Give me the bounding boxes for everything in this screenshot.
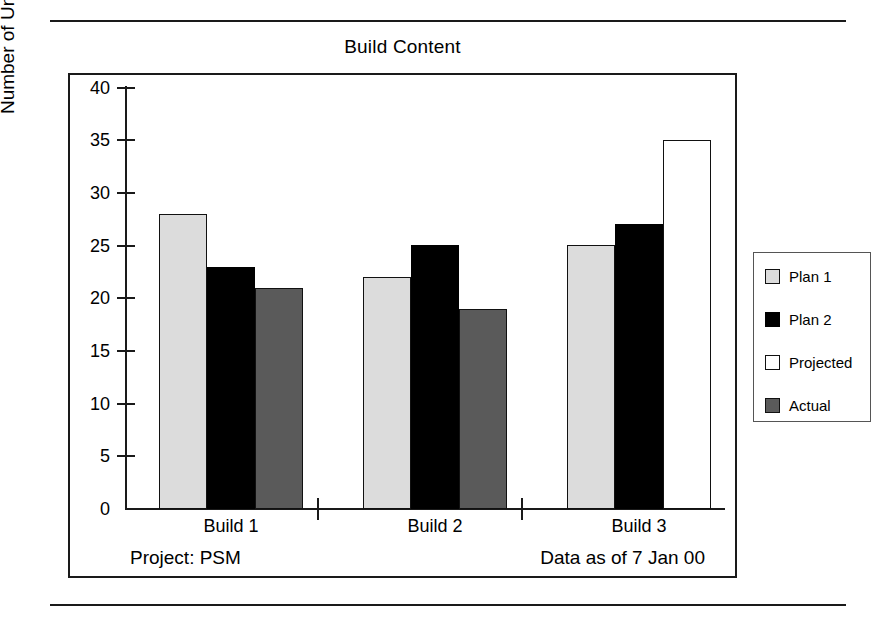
y-tick-label-5: 5 [68,447,110,465]
legend-item-plan-2[interactable]: Plan 2 [765,311,832,328]
bar-build3-projected[interactable] [663,140,711,509]
y-tick-30 [117,192,135,194]
bottom-horizontal-rule [50,604,846,606]
y-tick-40 [117,87,135,89]
chart-title: Build Content [68,36,737,58]
legend-label-plan-1: Plan 1 [789,268,832,285]
y-tick-label-25: 25 [68,237,110,255]
x-axis-label-build-1: Build 1 [151,516,311,537]
bar-build2-plan2[interactable] [411,245,459,509]
legend-item-plan-1[interactable]: Plan 1 [765,268,832,285]
group-separator-2 [521,498,523,520]
bar-build2-plan1[interactable] [363,277,411,509]
y-tick-label-30: 30 [68,184,110,202]
chart-legend: Plan 1 Plan 2 Projected Actual [753,252,871,422]
legend-swatch-plan-2 [765,312,780,327]
plot-area: 40 35 30 25 20 15 10 5 0 Build 1 [70,75,735,576]
x-axis-label-build-2: Build 2 [355,516,515,537]
y-tick-label-40: 40 [68,79,110,97]
y-tick-label-10: 10 [68,395,110,413]
y-tick-10 [117,403,135,405]
y-tick-15 [117,350,135,352]
data-as-of-annotation: Data as of 7 Jan 00 [540,547,705,569]
legend-swatch-plan-1 [765,269,780,284]
legend-label-actual: Actual [789,397,831,414]
y-tick-label-35: 35 [68,131,110,149]
y-tick-label-15: 15 [68,342,110,360]
bar-build2-actual[interactable] [459,309,507,509]
y-tick-25 [117,245,135,247]
y-tick-5 [117,455,135,457]
legend-item-projected[interactable]: Projected [765,354,852,371]
group-separator-1 [317,498,319,520]
y-tick-20 [117,297,135,299]
y-tick-35 [117,139,135,141]
bar-build3-plan2[interactable] [615,224,663,509]
bar-build3-plan1[interactable] [567,245,615,509]
legend-label-projected: Projected [789,354,852,371]
legend-item-actual[interactable]: Actual [765,397,831,414]
figure-page: { "chart_data": { "type": "bar", "title"… [0,0,896,623]
bar-build1-plan1[interactable] [159,214,207,509]
project-annotation: Project: PSM [130,547,241,569]
bar-build1-actual[interactable] [255,288,303,509]
x-axis-label-build-3: Build 3 [559,516,719,537]
plot-frame: 40 35 30 25 20 15 10 5 0 Build 1 [68,73,737,578]
legend-swatch-actual [765,398,780,413]
bar-build1-plan2[interactable] [207,267,255,509]
legend-swatch-projected [765,355,780,370]
y-tick-label-20: 20 [68,289,110,307]
y-tick-label-0: 0 [68,500,110,518]
y-axis-title: Number of Units Integrated [0,0,19,150]
top-horizontal-rule [50,20,846,22]
legend-label-plan-2: Plan 2 [789,311,832,328]
